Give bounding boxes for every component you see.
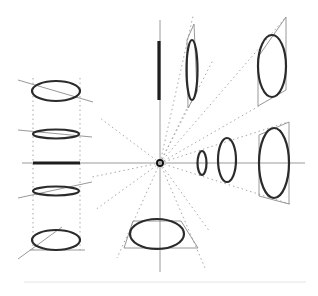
top-group bbox=[159, 17, 286, 108]
tilted-ellipse-bottom bbox=[32, 230, 80, 250]
bottom-group bbox=[124, 219, 198, 249]
left-group bbox=[18, 78, 93, 259]
thin-ellipse-lower bbox=[33, 187, 79, 196]
perspective-circles-diagram bbox=[0, 0, 318, 296]
medium-ellipse-right bbox=[218, 138, 236, 182]
wide-ellipse-top-right bbox=[258, 35, 286, 97]
wide-ellipse-frame bbox=[258, 17, 286, 106]
horizontal-ellipse-bottom bbox=[130, 219, 184, 249]
